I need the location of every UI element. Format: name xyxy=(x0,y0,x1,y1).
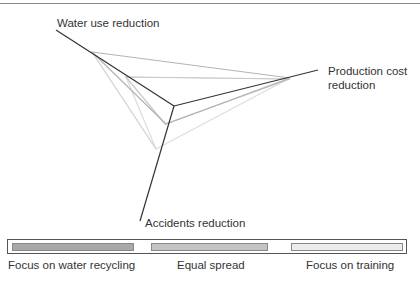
legend-label-training: Focus on training xyxy=(306,259,394,271)
legend xyxy=(7,239,407,254)
legend-swatch-training xyxy=(291,243,403,251)
series-water-recycling xyxy=(92,52,290,124)
series-equal-spread xyxy=(126,77,290,124)
axis-label-accidents: Accidents reduction xyxy=(145,216,245,230)
legend-swatch-water-recycling xyxy=(12,243,134,251)
axis-label-production-line1: Production cost xyxy=(328,64,407,78)
axis-label-water: Water use reduction xyxy=(57,16,159,30)
axis-label-production-line2: reduction xyxy=(328,78,407,92)
axis-label-production: Production cost reduction xyxy=(328,64,407,92)
legend-label-water-recycling: Focus on water recycling xyxy=(8,259,135,271)
legend-swatch-equal-spread xyxy=(151,243,268,251)
radar-chart xyxy=(0,0,420,235)
axis-water xyxy=(56,30,174,106)
series-water-recycling-b xyxy=(92,52,156,149)
legend-label-equal-spread: Equal spread xyxy=(177,259,245,271)
